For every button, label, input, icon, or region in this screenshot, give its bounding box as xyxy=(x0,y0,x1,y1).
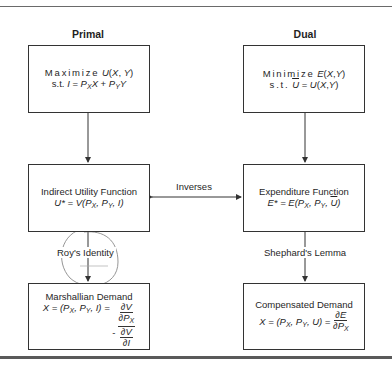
expenditure-box: Expenditure Function E* = E(PX, PY, U) xyxy=(243,164,365,232)
bottom-rule xyxy=(0,356,392,359)
dual-constraint: s.t. U = U(X,Y) xyxy=(270,79,339,90)
indirect-utility-equation: U* = V(PX, PY, I) xyxy=(54,197,123,211)
expenditure-equation: E* = E(PX, PY, U) xyxy=(268,197,341,211)
compensated-demand-box: Compensated Demand X = (PX, PY, U) = ∂E∂… xyxy=(243,283,365,350)
primal-heading: Primal xyxy=(28,28,148,40)
dual-heading: Dual xyxy=(245,28,365,40)
roys-identity-label: Roy's Identity xyxy=(55,247,116,258)
primal-problem-box: Maximize U(X, Y) s.t. I = PXX + PYY xyxy=(28,45,150,113)
marshallian-equation: X = (PX, PY, I) = - ∂V∂PX ∂V∂I xyxy=(43,302,135,348)
dual-problem-box: Minimize E(X,Y) s.t. U = U(X,Y) xyxy=(243,45,365,113)
compensated-equation: X = (PX, PY, U) = ∂E∂PX xyxy=(259,310,348,334)
indirect-utility-title: Indirect Utility Function xyxy=(41,186,137,197)
inverses-label: Inverses xyxy=(174,181,214,192)
maximize-label: Maximize xyxy=(45,67,100,78)
top-rule xyxy=(0,6,392,7)
marshallian-title: Marshallian Demand xyxy=(45,291,132,302)
primal-constraint: s.t. I = PXX + PYY xyxy=(52,78,126,92)
indirect-utility-box: Indirect Utility Function U* = V(PX, PY,… xyxy=(28,164,150,232)
minimize-label: Minimize xyxy=(263,68,315,79)
expenditure-title: Expenditure Function xyxy=(259,186,349,197)
marshallian-demand-box: Marshallian Demand X = (PX, PY, I) = - ∂… xyxy=(28,283,150,350)
shephards-lemma-label: Shephard's Lemma xyxy=(262,247,348,258)
